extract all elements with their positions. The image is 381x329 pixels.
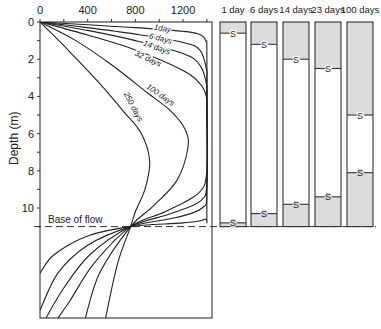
column-label: 1 day xyxy=(221,4,244,15)
column-1-day: SS1 day xyxy=(220,4,246,228)
y-tick-label: 2 xyxy=(28,53,34,65)
unshaded-zone xyxy=(347,115,373,173)
x-tick-label: 800 xyxy=(126,4,144,16)
base-of-flow-label: Base of flow xyxy=(48,214,103,225)
y-tick-label: 6 xyxy=(28,128,34,140)
upper-shaded-zone xyxy=(283,22,309,59)
column-label: 100 days xyxy=(341,4,380,15)
unshaded-zone xyxy=(283,59,309,204)
s-marker: S xyxy=(325,192,331,202)
y-tick-label: 10 xyxy=(22,202,34,214)
column-23-days: SS23 days xyxy=(311,4,345,227)
curve-label: 250 days xyxy=(121,89,145,123)
y-tick-label: 8 xyxy=(28,165,34,177)
y-tick-label: 0 xyxy=(28,16,34,28)
y-axis-title: Depth (m) xyxy=(7,112,21,165)
upper-shaded-zone xyxy=(347,22,373,115)
s-marker: S xyxy=(293,55,299,65)
column-label: 6 days xyxy=(250,4,278,15)
curve-6-days xyxy=(40,22,207,310)
curve-100-days xyxy=(40,22,188,318)
s-marker: S xyxy=(261,209,267,219)
s-marker: S xyxy=(230,218,236,228)
column-label: 14 days xyxy=(279,4,313,15)
column-6-days: SS6 days xyxy=(250,4,278,227)
curve-label: 100 days xyxy=(145,82,177,108)
curve-250-days xyxy=(40,22,150,318)
y-tick-label: 4 xyxy=(28,90,34,102)
upper-shaded-zone xyxy=(315,22,341,69)
s-marker: S xyxy=(261,40,267,50)
s-columns-panel: SS1 daySS6 daysSS14 daysSS23 daysSS100 d… xyxy=(220,4,380,228)
curves xyxy=(40,22,208,318)
plot-frame xyxy=(40,22,212,318)
s-marker: S xyxy=(325,64,331,74)
x-tick-label: 400 xyxy=(79,4,97,16)
figure: 040080012000246810Depth (m)Base of flow1… xyxy=(0,0,381,329)
unshaded-zone xyxy=(220,33,246,223)
x-tick-label: 0 xyxy=(37,4,43,16)
column-100-days: SS100 days xyxy=(341,4,380,227)
column-14-days: SS14 days xyxy=(279,4,313,227)
s-marker: S xyxy=(357,168,363,178)
s-marker: S xyxy=(357,111,363,121)
x-tick-label: 1200 xyxy=(171,4,195,16)
unshaded-zone xyxy=(315,69,341,197)
s-marker: S xyxy=(293,200,299,210)
unshaded-zone xyxy=(251,44,277,213)
lower-shaded-zone xyxy=(347,173,373,227)
s-marker: S xyxy=(230,29,236,39)
